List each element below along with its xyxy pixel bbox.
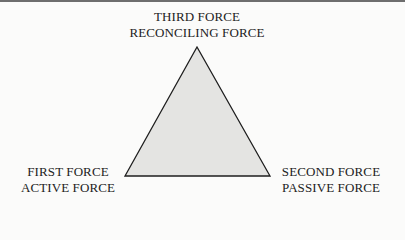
vertex-label-second-force: SECOND FORCE PASSIVE FORCE — [272, 164, 390, 196]
first-force-title: FIRST FORCE — [4, 164, 132, 180]
second-force-subtitle: PASSIVE FORCE — [272, 180, 390, 196]
second-force-title: SECOND FORCE — [272, 164, 390, 180]
first-force-subtitle: ACTIVE FORCE — [4, 180, 132, 196]
forces-triangle — [125, 47, 270, 176]
vertex-label-first-force: FIRST FORCE ACTIVE FORCE — [4, 164, 132, 196]
